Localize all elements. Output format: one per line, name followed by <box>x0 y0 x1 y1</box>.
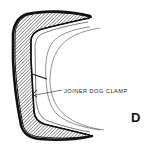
lining-line-1 <box>35 22 90 132</box>
lining-line-3 <box>50 28 104 130</box>
callout-label: JOINER DOG CLAMP <box>64 88 128 94</box>
lining-line-2 <box>46 27 100 130</box>
hatched-frame-section <box>15 13 92 139</box>
clamp-mark <box>34 90 37 97</box>
joiner-dog-clamp-diagram: JOINER DOG CLAMP D <box>0 0 159 151</box>
callout-leader-line <box>35 90 62 95</box>
clamp-bar <box>32 74 47 79</box>
figure-letter: D <box>131 110 140 125</box>
